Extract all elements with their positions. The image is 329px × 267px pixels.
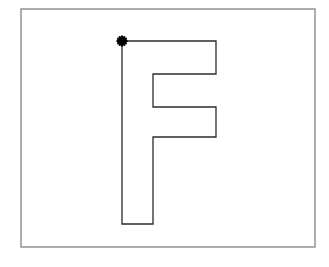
letter-f-figure: [0, 0, 329, 267]
border-frame-stroke: [21, 9, 315, 247]
figure-canvas: Outline drawing of capital letter F with…: [0, 0, 329, 267]
